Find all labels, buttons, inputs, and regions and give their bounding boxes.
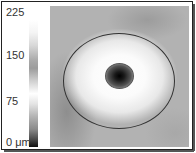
colorbar-tick-225: 225: [6, 7, 24, 18]
colorbar-tick-75: 75: [6, 96, 18, 107]
thickness-map: [50, 6, 189, 147]
colorbar-tick-0: 0 μm: [6, 137, 31, 148]
fovea-center: [105, 63, 134, 89]
colorbar: [29, 20, 38, 147]
colorbar-tick-150: 150: [6, 50, 24, 61]
